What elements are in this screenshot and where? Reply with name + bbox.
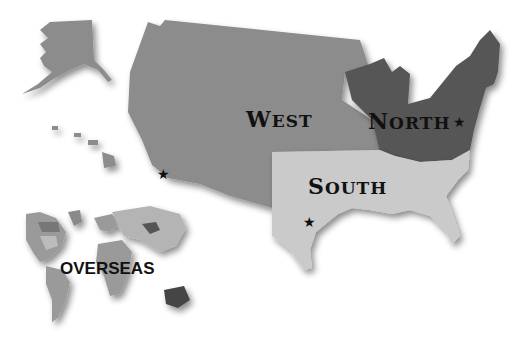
star-icon-south[interactable]: ★ (303, 215, 316, 229)
label-south-initial: S (308, 173, 325, 199)
label-north-rest: ORTH (389, 113, 450, 133)
label-north: NORTH (368, 108, 450, 134)
hawaii-shape (52, 126, 116, 168)
label-west-rest: EST (272, 111, 313, 131)
label-west: WEST (246, 106, 313, 132)
label-west-initial: W (246, 106, 272, 132)
label-south: SOUTH (308, 173, 387, 199)
label-south-rest: OUTH (325, 178, 387, 198)
regions-map (0, 0, 524, 345)
region-south[interactable] (272, 150, 470, 270)
star-icon-west[interactable]: ★ (157, 167, 170, 181)
label-north-initial: N (368, 108, 389, 134)
label-overseas: OVERSEAS (60, 259, 154, 279)
star-icon-north[interactable]: ★ (453, 115, 466, 129)
alaska-shape (22, 20, 112, 94)
